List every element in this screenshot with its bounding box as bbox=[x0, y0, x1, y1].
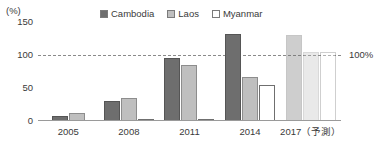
bar-2008-laos bbox=[121, 98, 137, 121]
x-tick-label-2008: 2008 bbox=[118, 126, 139, 137]
bar-2014-cambodia bbox=[225, 34, 241, 121]
bar-group-2014: 2014 bbox=[220, 22, 281, 121]
x-tick-label-2014: 2014 bbox=[240, 126, 261, 137]
bar-2017-cambodia bbox=[286, 35, 302, 121]
bar-groups: 2005 2008 2011 bbox=[38, 22, 341, 121]
mobile-penetration-bar-chart: (%) Cambodia Laos Myanmar 150 100 50 0 1… bbox=[0, 0, 380, 149]
bar-2017-myanmar bbox=[320, 52, 336, 121]
bar-2014-laos bbox=[242, 77, 258, 121]
bars-2017 bbox=[280, 22, 341, 121]
legend-item-laos: Laos bbox=[167, 7, 199, 20]
bar-2011-laos bbox=[181, 65, 197, 121]
x-tick-label-2005: 2005 bbox=[58, 126, 79, 137]
bars-2008 bbox=[99, 22, 160, 121]
legend-label-laos: Laos bbox=[178, 9, 199, 19]
legend-swatch-laos bbox=[167, 10, 175, 18]
y-tick-50: 50 bbox=[22, 83, 33, 93]
bar-2008-cambodia bbox=[104, 101, 120, 121]
legend-swatch-myanmar bbox=[212, 10, 220, 18]
y-tick-0: 0 bbox=[28, 116, 33, 126]
chart-legend: Cambodia Laos Myanmar bbox=[100, 7, 263, 20]
legend-swatch-cambodia bbox=[100, 10, 108, 18]
legend-label-myanmar: Myanmar bbox=[223, 9, 263, 19]
bar-2014-myanmar bbox=[259, 85, 275, 121]
y-tick-150: 150 bbox=[17, 17, 33, 27]
y-tick-100: 100 bbox=[17, 50, 33, 60]
bars-2011 bbox=[159, 22, 220, 121]
bar-2017-laos bbox=[303, 52, 319, 121]
bars-2005 bbox=[38, 22, 99, 121]
legend-item-myanmar: Myanmar bbox=[212, 7, 263, 20]
bar-group-2008: 2008 bbox=[99, 22, 160, 121]
bar-group-2017-forecast: 2017（予測） bbox=[280, 22, 341, 121]
reference-line-label-100: 100% bbox=[349, 50, 373, 60]
y-axis-unit-label: (%) bbox=[6, 5, 21, 16]
bar-group-2011: 2011 bbox=[159, 22, 220, 121]
legend-label-cambodia: Cambodia bbox=[111, 9, 154, 19]
bars-2014 bbox=[220, 22, 281, 121]
legend-item-cambodia: Cambodia bbox=[100, 7, 154, 20]
bar-2011-cambodia bbox=[164, 58, 180, 121]
x-tick-label-2017: 2017（予測） bbox=[280, 126, 341, 137]
x-tick-label-2011: 2011 bbox=[179, 126, 199, 137]
x-axis-line bbox=[38, 120, 341, 121]
plot-area: 150 100 50 0 100% 2005 2008 bbox=[38, 22, 341, 121]
bar-group-2005: 2005 bbox=[38, 22, 99, 121]
